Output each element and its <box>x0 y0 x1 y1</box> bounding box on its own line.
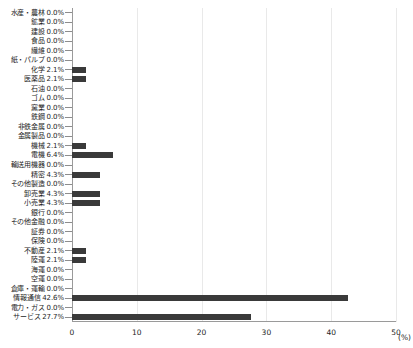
category-label: ゴム0.0% <box>0 94 65 102</box>
category-label: その他製造0.0% <box>0 180 65 188</box>
category-value-label: 0.0% <box>47 209 64 217</box>
bar-row: 不動産2.1% <box>0 246 413 256</box>
bar-track <box>72 227 413 237</box>
bar <box>72 172 100 178</box>
category-label: 保険0.0% <box>0 237 65 245</box>
category-name: 医薬品 <box>24 75 45 83</box>
category-name: 鉄鋼 <box>31 113 45 121</box>
category-value-label: 0.0% <box>47 18 64 26</box>
bar-track <box>72 170 413 180</box>
bar-row: 機械2.1% <box>0 141 413 151</box>
y-axis-tick <box>65 203 72 204</box>
category-name: 紙・パルプ <box>11 56 46 64</box>
y-axis-tick <box>65 231 72 232</box>
category-value-label: 0.0% <box>47 28 64 36</box>
bar <box>72 152 113 158</box>
bar-track <box>72 208 413 218</box>
y-axis-tick <box>65 260 72 261</box>
y-axis-tick <box>65 307 72 308</box>
x-axis-tick-labels: 01020304050 <box>0 328 413 342</box>
bar-track <box>72 246 413 256</box>
bar-track <box>72 151 413 161</box>
category-name: 保険 <box>31 237 45 245</box>
bar-row: 水産・農林0.0% <box>0 8 413 18</box>
bar-track <box>72 113 413 123</box>
category-value-label: 0.0% <box>47 161 64 169</box>
category-label: 倉庫・運輸0.0% <box>0 285 65 293</box>
bar-track <box>72 141 413 151</box>
y-axis-tick <box>65 298 72 299</box>
y-axis-tick <box>65 165 72 166</box>
category-label: 鉱業0.0% <box>0 18 65 26</box>
x-tick-label: 40 <box>326 328 336 337</box>
bar-track <box>72 198 413 208</box>
y-axis-tick <box>65 222 72 223</box>
y-axis-tick <box>65 50 72 51</box>
category-value-label: 27.7% <box>42 313 64 321</box>
category-label: 精密4.3% <box>0 171 65 179</box>
category-name: 輸送用機器 <box>11 161 46 169</box>
bar <box>72 200 100 206</box>
category-label: その他金融0.0% <box>0 218 65 226</box>
y-axis-tick <box>65 250 72 251</box>
bar-row: 銀行0.0% <box>0 208 413 218</box>
category-value-label: 2.1% <box>47 256 64 264</box>
y-axis-tick <box>65 41 72 42</box>
bar-row: 電力・ガス0.0% <box>0 303 413 313</box>
x-tick-label: 30 <box>262 328 272 337</box>
category-value-label: 0.0% <box>47 132 64 140</box>
category-value-label: 0.0% <box>47 47 64 55</box>
category-name: 海運 <box>31 266 45 274</box>
category-value-label: 0.0% <box>47 218 64 226</box>
y-axis-tick <box>65 279 72 280</box>
y-axis-tick <box>65 269 72 270</box>
y-axis-tick <box>65 126 72 127</box>
bar-row: 非鉄金属0.0% <box>0 122 413 132</box>
bar-track <box>72 94 413 104</box>
x-tick-label: 20 <box>197 328 207 337</box>
bar-track <box>72 84 413 94</box>
y-axis-tick <box>65 79 72 80</box>
category-name: 証券 <box>31 228 45 236</box>
category-label: 窯業0.0% <box>0 104 65 112</box>
category-name: 機械 <box>31 142 45 150</box>
category-value-label: 2.1% <box>47 75 64 83</box>
category-name: 非鉄金属 <box>18 123 46 131</box>
y-axis-tick <box>65 184 72 185</box>
category-value-label: 0.0% <box>47 285 64 293</box>
bar <box>72 143 86 149</box>
x-tick-label: 10 <box>132 328 142 337</box>
category-value-label: 4.3% <box>47 199 64 207</box>
category-name: 卸売業 <box>24 190 45 198</box>
category-label: 建設0.0% <box>0 28 65 36</box>
category-label: 卸売業4.3% <box>0 190 65 198</box>
category-name: 建設 <box>31 28 45 36</box>
category-label: 石油0.0% <box>0 85 65 93</box>
y-axis-tick <box>65 193 72 194</box>
y-axis-tick <box>65 107 72 108</box>
category-name: 電機 <box>31 151 45 159</box>
category-label: 輸送用機器0.0% <box>0 161 65 169</box>
category-label: 食品0.0% <box>0 37 65 45</box>
category-name: 情報通信 <box>13 294 41 302</box>
category-label: 電機6.4% <box>0 151 65 159</box>
category-value-label: 0.0% <box>47 37 64 45</box>
bar-track <box>72 303 413 313</box>
category-label: 医薬品2.1% <box>0 75 65 83</box>
category-name: 石油 <box>31 85 45 93</box>
category-label: 小売業4.3% <box>0 199 65 207</box>
category-label: 陸運2.1% <box>0 256 65 264</box>
y-axis-tick <box>65 174 72 175</box>
category-label: 非鉄金属0.0% <box>0 123 65 131</box>
category-name: 水産・農林 <box>11 9 46 17</box>
bar-row: 陸運2.1% <box>0 255 413 265</box>
bar-row: 精密4.3% <box>0 170 413 180</box>
bar <box>72 67 86 73</box>
category-name: 精密 <box>31 171 45 179</box>
category-value-label: 0.0% <box>47 56 64 64</box>
y-axis-tick <box>65 22 72 23</box>
category-name: 繊維 <box>31 47 45 55</box>
bar-track <box>72 217 413 227</box>
y-axis-tick <box>65 12 72 13</box>
bar-track <box>72 37 413 47</box>
